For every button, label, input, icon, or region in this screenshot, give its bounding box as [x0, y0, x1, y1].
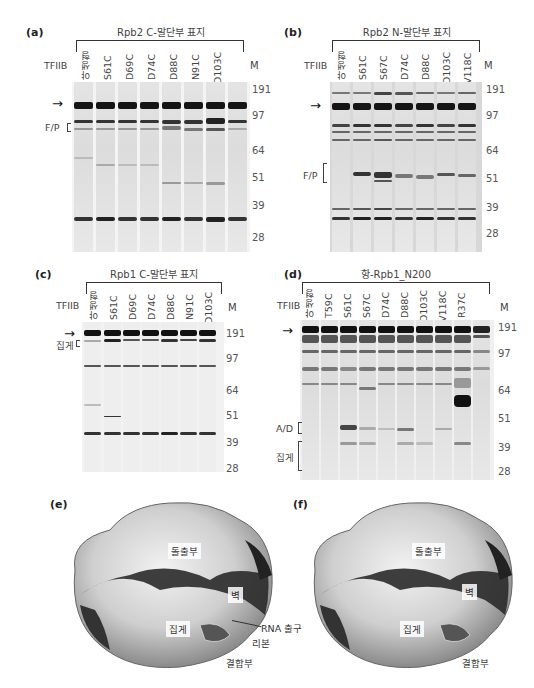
label-wall: 벽 [228, 587, 243, 603]
panel-b-label: (b) [284, 26, 302, 39]
lane-label: D88C [165, 290, 176, 320]
panel-c-row-label: TFIIB [56, 300, 79, 311]
marker-label: 51 [226, 410, 239, 421]
marker-label: 28 [226, 463, 239, 474]
annotation-clamp: 집게 [56, 338, 74, 352]
panel-d-label: (d) [284, 268, 302, 281]
marker-label: 191 [252, 84, 271, 95]
annotation-ad: A/D [276, 423, 293, 434]
lane-label: S61C [102, 50, 113, 80]
bracket-icon [298, 422, 302, 434]
bracket-icon [323, 163, 327, 183]
bracket-icon [67, 123, 71, 132]
marker-label: 39 [252, 200, 265, 211]
marker-label: 28 [486, 228, 499, 239]
panel-c-marker-header: M [228, 302, 237, 313]
marker-label: 39 [498, 442, 511, 453]
annotation-clamp: 집게 [276, 450, 294, 464]
label-protrusion: 돌출부 [168, 543, 201, 559]
panel-c-title: Rpb1 C-말단부 표지 [86, 266, 222, 281]
bracket-icon [76, 340, 80, 347]
lane-label: S61C [357, 50, 368, 80]
panel-c-label: (c) [35, 268, 52, 281]
marker-label: 51 [486, 173, 499, 184]
panel-a-title: Rpb2 C-말단부 표지 [76, 24, 246, 39]
lane-label: 야생형 [304, 288, 318, 318]
lane-label: T59C [323, 288, 334, 318]
marker-label: 64 [226, 385, 239, 396]
bracket-icon [298, 441, 302, 471]
lane-label: D103C [441, 50, 452, 84]
marker-label: 51 [498, 413, 511, 424]
marker-label: 39 [226, 437, 239, 448]
lane-label: S61C [108, 290, 119, 320]
label-clamp: 집게 [166, 621, 190, 637]
lane-label: D103C [212, 50, 223, 84]
gel-image-d [300, 320, 494, 480]
marker-label: 28 [252, 232, 265, 243]
arrow-icon: → [310, 99, 321, 112]
marker-label: 28 [498, 466, 511, 477]
lane-label: 야생형 [80, 50, 94, 80]
marker-label: 97 [252, 110, 265, 121]
panel-d-title: 항-Rpb1_N200 [302, 266, 490, 281]
panel-a-label: (a) [26, 26, 43, 39]
label-dock: 결합부 [226, 656, 253, 670]
lane-label: D103C [203, 290, 214, 324]
marker-label: 51 [252, 172, 265, 183]
label-wall: 벽 [462, 584, 477, 600]
marker-label: 97 [226, 353, 239, 364]
marker-label: 64 [252, 145, 265, 156]
panel-d-row-label: TFIIB [277, 300, 300, 311]
panel-d-marker-header: M [500, 302, 509, 313]
lane-label: 야생형 [88, 290, 102, 320]
arrow-icon: → [282, 324, 293, 337]
lane-label: D74C [146, 290, 157, 320]
lane-label: D74C [399, 50, 410, 80]
label-ribbon: 리본 [252, 636, 270, 650]
gel-image-b [330, 82, 482, 252]
marker-label: 191 [498, 322, 517, 333]
polymerase-structure-e [60, 495, 275, 675]
label-dock: 결합부 [462, 656, 489, 670]
lane-label: D69C [124, 50, 135, 80]
panel-b-row-label: TFIIB [304, 60, 327, 71]
label-clamp: 집게 [400, 621, 424, 637]
lane-label: N91C [184, 290, 195, 320]
lane-label: D74C [380, 288, 391, 318]
lane-label: V118C [437, 288, 448, 322]
panel-b-marker-header: M [484, 60, 493, 71]
marker-label: 39 [486, 202, 499, 213]
annotation-fp: F/P [45, 122, 59, 133]
marker-label: 64 [498, 385, 511, 396]
label-protrusion: 돌출부 [412, 543, 445, 559]
lane-label: D74C [146, 50, 157, 80]
marker-label: 97 [498, 348, 511, 359]
lane-label: N91C [190, 50, 201, 80]
lane-label: D103C [418, 288, 429, 322]
panel-a-row-label: TFIIB [44, 60, 67, 71]
lane-label: D88C [399, 288, 410, 318]
lane-label: D88C [420, 50, 431, 80]
lane-label: 야생형 [336, 50, 350, 80]
marker-label: 64 [486, 145, 499, 156]
lane-label: S67C [378, 50, 389, 80]
marker-label: 97 [486, 110, 499, 121]
arrow-icon: → [52, 97, 63, 110]
lane-label: S67C [361, 288, 372, 318]
gel-image-c [82, 322, 224, 472]
lane-label: S61C [342, 288, 353, 318]
marker-label: 191 [486, 84, 505, 95]
panel-b-title: Rpb2 N-말단부 표지 [332, 24, 482, 39]
lane-label: R37C [456, 288, 467, 318]
lane-label: D69C [127, 290, 138, 320]
polymerase-structure-f [300, 495, 520, 675]
marker-label: 191 [226, 328, 245, 339]
annotation-fp: F/P [303, 170, 317, 181]
lane-label: D88C [168, 50, 179, 80]
lane-label: V118C [462, 50, 473, 84]
panel-a-marker-header: M [250, 60, 259, 71]
label-rna-exit: RNA 출구 [261, 621, 302, 635]
gel-image-a [72, 82, 250, 252]
